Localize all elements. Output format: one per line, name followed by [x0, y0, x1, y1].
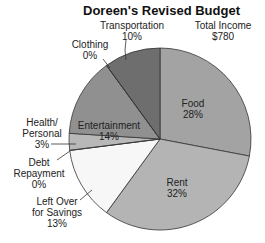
label-transportation: Transportation 10% [94, 20, 170, 42]
label-health: Health/ Personal 3% [20, 117, 64, 150]
label-health-line2: Personal [20, 128, 64, 139]
label-transportation-pct: 10% [94, 31, 170, 42]
label-debt-line2: Repayment [12, 168, 66, 179]
total-income-annotation: Total Income $780 [188, 20, 258, 42]
label-clothing-pct: 0% [67, 50, 113, 61]
label-debt: Debt Repayment 0% [12, 157, 66, 190]
label-rent-name: Rent [152, 177, 202, 188]
label-entertainment: Entertainment 14% [74, 120, 144, 142]
label-savings-line1: Left Over [30, 196, 84, 207]
total-income-label: Total Income [188, 20, 258, 31]
label-debt-line1: Debt [12, 157, 66, 168]
label-food: Food 28% [168, 98, 218, 120]
label-entertainment-pct: 14% [74, 131, 144, 142]
label-transportation-name: Transportation [94, 20, 170, 31]
label-health-pct: 3% [20, 139, 64, 150]
label-savings-line2: for Savings [30, 207, 84, 218]
label-health-line1: Health/ [20, 117, 64, 128]
total-income-value: $780 [188, 31, 258, 42]
label-debt-pct: 0% [12, 179, 66, 190]
label-rent: Rent 32% [152, 177, 202, 199]
label-rent-pct: 32% [152, 188, 202, 199]
label-savings-pct: 13% [30, 218, 84, 229]
label-entertainment-name: Entertainment [74, 120, 144, 131]
label-clothing: Clothing 0% [67, 39, 113, 61]
label-food-pct: 28% [168, 109, 218, 120]
label-savings: Left Over for Savings 13% [30, 196, 84, 229]
label-food-name: Food [168, 98, 218, 109]
leader-transportation [125, 40, 126, 60]
